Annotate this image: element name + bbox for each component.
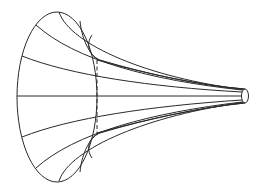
horn-drawing — [0, 0, 265, 193]
horn-mouth-rim — [17, 12, 97, 182]
horn-tip-opening — [242, 89, 249, 103]
horn-figure: Line drawing of a horn-shaped surface of… — [0, 0, 265, 193]
meridian-curves — [17, 12, 245, 181]
